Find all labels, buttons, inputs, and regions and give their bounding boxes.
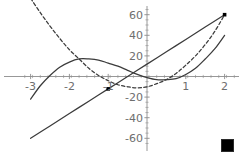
y-tick-label: -20 (125, 92, 143, 103)
y-tick-label: 60 (129, 9, 143, 20)
plot-figure: -3-2-112 604020-20-40-60 (0, 0, 243, 157)
x-tick-label: -1 (103, 81, 114, 92)
series-dashed-curve (31, 0, 225, 88)
point-marker-right (223, 13, 227, 17)
x-tick-label: -3 (25, 81, 36, 92)
x-tick-label: 1 (182, 81, 189, 92)
selection-square-marker (221, 139, 234, 152)
y-tick-label: 20 (129, 50, 143, 61)
x-tick-label: 2 (221, 81, 228, 92)
y-tick-label: -60 (125, 133, 143, 144)
x-tick-label: -2 (64, 81, 75, 92)
y-tick-label: 40 (129, 30, 143, 41)
plot-canvas (0, 0, 243, 157)
y-tick-label: -40 (125, 112, 143, 123)
series-solid-cubic (31, 35, 225, 99)
